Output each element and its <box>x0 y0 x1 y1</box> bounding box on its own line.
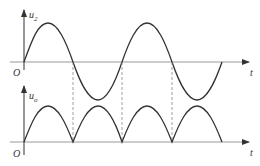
rectifier-waveform-diagram: u2 O t uo O t <box>0 0 260 166</box>
bottom-x-label: t <box>250 147 253 158</box>
bottom-rectified-curve <box>24 106 222 142</box>
bottom-plot: uo O t <box>10 86 253 159</box>
top-origin-label: O <box>13 67 20 78</box>
bottom-origin-label: O <box>13 148 20 159</box>
bottom-y-label: uo <box>29 90 38 104</box>
top-y-label: u2 <box>29 9 38 23</box>
dashed-guides <box>73 62 172 142</box>
top-x-label: t <box>250 67 253 78</box>
top-plot: u2 O t <box>10 9 253 100</box>
